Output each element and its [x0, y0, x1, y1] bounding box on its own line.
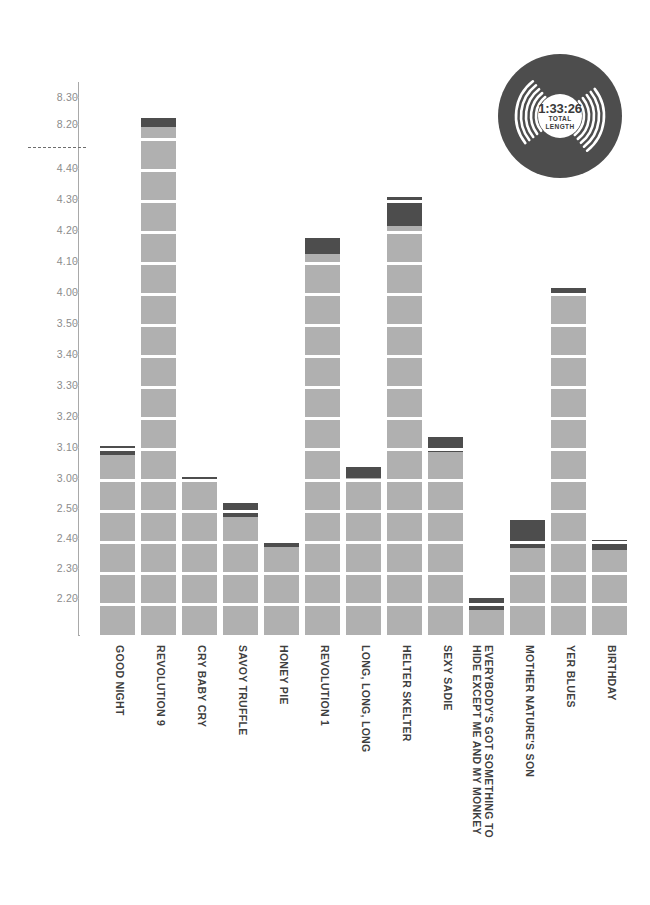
bar-fill [223, 503, 258, 635]
bar-segment-divider [141, 355, 176, 358]
bar[interactable] [592, 540, 627, 635]
bar-segment-divider [387, 355, 422, 358]
bar-segment-divider [387, 324, 422, 327]
bar-segment-divider [100, 603, 135, 606]
bar-segment-divider [551, 541, 586, 544]
vinyl-record-icon: 1:33:26 TOTAL LENGTH [496, 52, 624, 180]
bar-segment-divider [428, 448, 463, 451]
bar-segment-divider [387, 541, 422, 544]
bar-segment-divider [551, 417, 586, 420]
bar-segment-divider [182, 510, 217, 513]
bar[interactable] [182, 477, 217, 635]
bar-segment-divider [346, 479, 381, 482]
bar[interactable] [346, 467, 381, 635]
bar-fill [305, 238, 340, 635]
bar-segment-divider [551, 293, 586, 296]
chart-canvas: 8.308.204.404.304.204.104.003.503.403.30… [0, 0, 650, 905]
bar-segment-divider [264, 572, 299, 575]
bar-segment-divider [305, 510, 340, 513]
bar-segment-divider [551, 448, 586, 451]
bar-segment-divider [223, 541, 258, 544]
bar-segment-divider [428, 479, 463, 482]
bar[interactable] [551, 288, 586, 635]
x-axis-label: REVOLUTION 9 [155, 645, 167, 865]
bar-segment-divider [387, 262, 422, 265]
bar-segment-divider [141, 479, 176, 482]
bar-fill [592, 540, 627, 635]
bar-segment-divider [305, 479, 340, 482]
bar-segment-divider [100, 572, 135, 575]
bar-segment-divider [223, 572, 258, 575]
bar[interactable] [100, 446, 135, 635]
bar-segment-divider [305, 448, 340, 451]
bar-segment-divider [141, 169, 176, 172]
bar[interactable] [428, 437, 463, 635]
bar-segment-divider [182, 603, 217, 606]
bar-segment-divider [592, 572, 627, 575]
bar-cap-segment [510, 520, 545, 548]
bar-segment-divider [305, 262, 340, 265]
bar-segment-divider [305, 417, 340, 420]
bar-segment-divider [428, 603, 463, 606]
x-axis-label: BIRTHDAY [606, 645, 618, 865]
bar-segment-divider [428, 541, 463, 544]
bar-segment-divider [387, 479, 422, 482]
bar[interactable] [510, 520, 545, 635]
bar-segment-divider [387, 293, 422, 296]
bar-segment-divider [305, 324, 340, 327]
bar-segment-divider [387, 572, 422, 575]
bar-segment-divider [305, 541, 340, 544]
bar-segment-divider [551, 572, 586, 575]
bar-segment-divider [305, 572, 340, 575]
bar-segment-divider [141, 293, 176, 296]
bar-segment-divider [141, 603, 176, 606]
bar-segment-divider [305, 386, 340, 389]
bar-segment-divider [346, 603, 381, 606]
bar[interactable] [223, 503, 258, 635]
bar-segment-divider [428, 510, 463, 513]
bar-segment-divider [223, 603, 258, 606]
x-axis-label: SAVOY TRUFFLE [237, 645, 249, 865]
bar-segment-divider [141, 138, 176, 141]
bar-segment-divider [387, 448, 422, 451]
bar-segment-divider [141, 324, 176, 327]
bar-segment-divider [100, 479, 135, 482]
bar-fill [264, 543, 299, 635]
x-axis-label: MOTHER NATURE'S SON [524, 645, 536, 865]
bar-segment-divider [141, 417, 176, 420]
bar-cap-segment [264, 543, 299, 547]
bar-segment-divider [387, 231, 422, 234]
bar-segment-divider [100, 510, 135, 513]
bar-cap-segment [305, 238, 340, 254]
x-axis-label: SEXY SADIE [442, 645, 454, 865]
bar-segment-divider [182, 541, 217, 544]
bar-segment-divider [141, 510, 176, 513]
bar-segment-divider [592, 541, 627, 544]
bar-segment-divider [592, 603, 627, 606]
bar-segment-divider [305, 293, 340, 296]
bar-segment-divider [346, 541, 381, 544]
x-axis-label: REVOLUTION 1 [319, 645, 331, 865]
bar-segment-divider [100, 541, 135, 544]
bar-segment-divider [387, 200, 422, 203]
bar-segment-divider [510, 541, 545, 544]
bar-segment-divider [551, 510, 586, 513]
bar-segment-divider [305, 355, 340, 358]
bar-segment-divider [305, 603, 340, 606]
bar[interactable] [305, 238, 340, 635]
bar-segment-divider [551, 603, 586, 606]
bar[interactable] [141, 118, 176, 635]
bar-fill [141, 118, 176, 635]
bar[interactable] [387, 197, 422, 635]
bar-segment-divider [141, 262, 176, 265]
bar[interactable] [469, 598, 504, 635]
bar-segment-divider [141, 572, 176, 575]
bar-segment-divider [264, 603, 299, 606]
bar[interactable] [264, 543, 299, 635]
bar-segment-divider [223, 510, 258, 513]
bar-fill [551, 288, 586, 635]
bar-segment-divider [346, 572, 381, 575]
bar-cap-segment [141, 118, 176, 127]
bar-segment-divider [141, 448, 176, 451]
bar-segment-divider [387, 417, 422, 420]
